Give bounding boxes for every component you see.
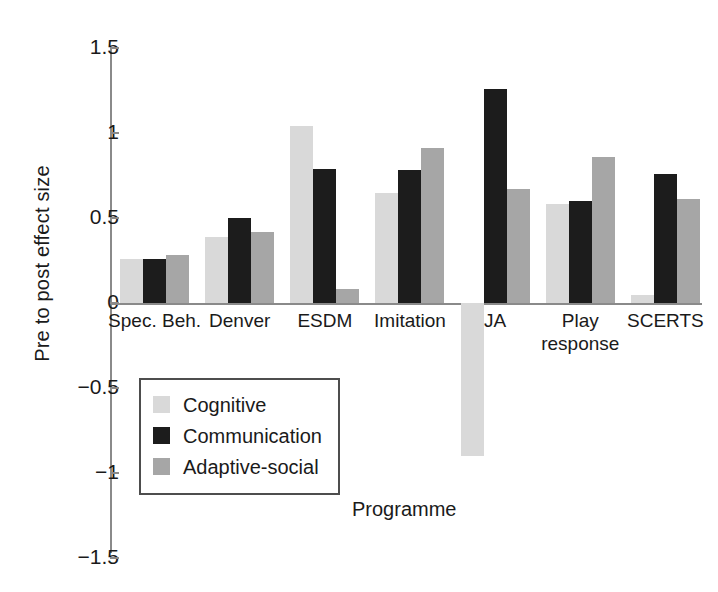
legend-item: Cognitive xyxy=(153,389,322,420)
bar-adaptive-social xyxy=(336,289,359,303)
y-tick-3: 0 xyxy=(0,302,119,304)
bar-adaptive-social xyxy=(592,157,615,303)
x-tick-label: SCERTS xyxy=(609,309,718,332)
bar-adaptive-social xyxy=(677,199,700,303)
bar-communication xyxy=(484,89,507,303)
bar-group: Play response xyxy=(538,47,623,553)
bar-adaptive-social xyxy=(166,255,189,303)
bars-container xyxy=(453,47,538,553)
bars-container xyxy=(367,47,452,553)
bars-container xyxy=(623,47,708,553)
bar-chart-figure: Pre to post effect size 1.510.50−0.5−1−1… xyxy=(0,0,718,592)
legend: CognitiveCommunicationAdaptive-social xyxy=(139,378,340,495)
legend-swatch-icon xyxy=(153,396,170,413)
bar-cognitive xyxy=(546,204,569,303)
bar-adaptive-social xyxy=(507,189,530,303)
bar-communication xyxy=(398,170,421,303)
legend-item: Adaptive-social xyxy=(153,451,322,482)
legend-item: Communication xyxy=(153,420,322,451)
bar-group: SCERTS xyxy=(623,47,708,553)
bar-communication xyxy=(313,169,336,303)
y-tick-2: 0.5 xyxy=(0,217,119,219)
bar-cognitive xyxy=(631,295,654,304)
bar-communication xyxy=(654,174,677,303)
legend-label: Communication xyxy=(183,426,322,446)
y-tick-1: 1 xyxy=(0,132,119,134)
y-tick-mark xyxy=(110,557,119,559)
bar-cognitive xyxy=(205,237,228,303)
bars-container xyxy=(538,47,623,553)
bar-adaptive-social xyxy=(421,148,444,303)
bar-communication xyxy=(569,201,592,303)
legend-swatch-icon xyxy=(153,458,170,475)
bar-communication xyxy=(143,259,166,303)
x-axis-title: Programme xyxy=(352,498,456,521)
bar-communication xyxy=(228,218,251,303)
y-tick-6: −1.5 xyxy=(0,557,119,559)
y-tick-4: −0.5 xyxy=(0,387,119,389)
y-axis-title: Pre to post effect size xyxy=(31,104,54,424)
legend-label: Adaptive-social xyxy=(183,457,319,477)
bar-cognitive xyxy=(120,259,143,303)
bar-adaptive-social xyxy=(251,232,274,303)
legend-label: Cognitive xyxy=(183,395,266,415)
bar-cognitive xyxy=(375,193,398,304)
bar-group: JA xyxy=(453,47,538,553)
bar-group: Imitation xyxy=(367,47,452,553)
y-tick-5: −1 xyxy=(0,472,119,474)
y-tick-0: 1.5 xyxy=(0,47,119,49)
bar-cognitive xyxy=(290,126,313,303)
legend-swatch-icon xyxy=(153,427,170,444)
